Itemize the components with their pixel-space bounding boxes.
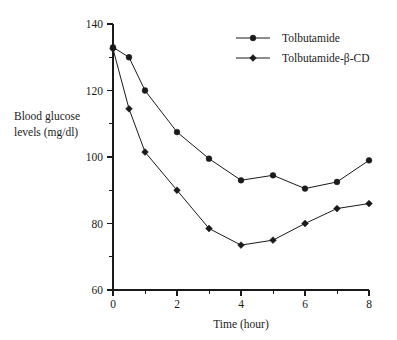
data-point xyxy=(206,156,212,162)
data-point xyxy=(334,205,341,212)
y-axis: 6080100120140 xyxy=(86,18,113,296)
legend-label: Tolbutamide-β-CD xyxy=(282,52,369,65)
y-tick-label: 80 xyxy=(92,218,104,230)
chart-figure: 6080100120140 02468 TolbutamideTolbutami… xyxy=(0,0,397,340)
data-point xyxy=(238,177,244,183)
x-tick-label: 0 xyxy=(110,298,116,310)
series-line xyxy=(113,47,369,188)
x-tick-label: 4 xyxy=(238,298,244,310)
series-2 xyxy=(110,46,373,249)
data-point xyxy=(142,88,148,94)
x-tick-label: 8 xyxy=(366,298,372,310)
data-point xyxy=(366,157,372,163)
data-point xyxy=(126,54,132,60)
x-tick-label: 2 xyxy=(174,298,180,310)
data-point xyxy=(126,105,133,112)
data-point xyxy=(238,242,245,249)
x-axis-title: Time (hour) xyxy=(213,318,269,331)
y-tick-label: 120 xyxy=(86,85,104,97)
legend-label: Tolbutamide xyxy=(282,32,340,44)
legend-marker xyxy=(250,35,256,41)
y-tick-label: 140 xyxy=(86,18,104,30)
chart-legend: TolbutamideTolbutamide-β-CD xyxy=(236,32,369,65)
legend-item-1: Tolbutamide xyxy=(236,32,340,44)
y-tick-label: 60 xyxy=(92,284,104,296)
legend-marker xyxy=(250,55,257,62)
data-point xyxy=(302,186,308,192)
data-point xyxy=(302,220,309,227)
y-tick-label: 100 xyxy=(86,151,104,163)
y-axis-title-line1: Blood glucose xyxy=(14,110,80,123)
data-point xyxy=(270,172,276,178)
x-axis: 02468 xyxy=(110,290,372,310)
data-point xyxy=(270,237,277,244)
data-point xyxy=(334,179,340,185)
data-series-group xyxy=(110,44,373,248)
x-tick-label: 6 xyxy=(302,298,308,310)
legend-item-2: Tolbutamide-β-CD xyxy=(236,52,369,65)
data-point xyxy=(366,200,373,207)
series-1 xyxy=(110,44,372,191)
y-axis-title-line2: levels (mg/dl) xyxy=(14,126,78,139)
series-line xyxy=(113,49,369,245)
data-point xyxy=(174,129,180,135)
line-chart: 6080100120140 02468 TolbutamideTolbutami… xyxy=(0,0,397,340)
